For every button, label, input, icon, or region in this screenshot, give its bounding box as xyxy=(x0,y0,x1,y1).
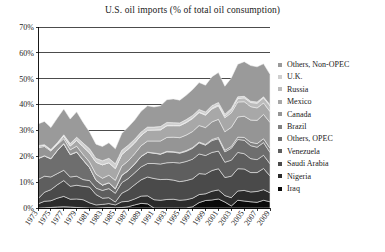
legend-item[interactable]: Canada xyxy=(278,110,311,119)
x-axis-tick-label: 2003 xyxy=(216,209,233,227)
legend-label: Others, OPEC xyxy=(287,134,333,143)
y-axis-tick-label: 30% xyxy=(19,126,34,135)
legend-item[interactable]: Saudi Arabia xyxy=(278,159,329,168)
legend-item[interactable]: Nigeria xyxy=(278,172,311,181)
legend-swatch-icon xyxy=(278,162,282,166)
legend-item[interactable]: Mexico xyxy=(278,97,311,106)
stacked-area-plot: 0%10%20%30%40%50%60%70%19731975197719791… xyxy=(0,0,385,252)
x-axis-tick-label: 1989 xyxy=(126,209,143,227)
legend-label: Iraq xyxy=(287,184,300,193)
legend-label: U.K. xyxy=(287,72,303,81)
x-axis-tick-label: 1991 xyxy=(139,209,156,227)
legend-swatch-icon xyxy=(278,75,282,79)
y-axis-tick-label: 20% xyxy=(19,152,34,161)
y-axis-tick-label: 70% xyxy=(19,23,34,32)
legend-label: Saudi Arabia xyxy=(287,159,329,168)
legend-swatch-icon xyxy=(278,187,282,191)
x-axis-tick-label: 1993 xyxy=(152,209,169,227)
legend-label: Others, Non-OPEC xyxy=(287,60,349,69)
x-axis-tick-label: 1997 xyxy=(178,209,195,227)
legend-label: Mexico xyxy=(287,97,311,106)
legend-item[interactable]: Others, OPEC xyxy=(278,134,333,143)
x-axis-tick-label: 2005 xyxy=(229,209,246,227)
x-axis-tick-label: 2001 xyxy=(204,209,221,227)
y-axis-tick-label: 40% xyxy=(19,100,34,109)
legend-swatch-icon xyxy=(278,100,282,104)
legend-item[interactable]: Russia xyxy=(278,85,308,94)
legend-label: Venezuela xyxy=(287,147,320,156)
legend-label: Brazil xyxy=(287,122,307,131)
y-axis-tick-label: 50% xyxy=(19,75,34,84)
y-axis-tick-label: 60% xyxy=(19,49,34,58)
legend-swatch-icon xyxy=(278,125,282,129)
legend-swatch-icon xyxy=(278,112,282,116)
legend-swatch-icon xyxy=(278,87,282,91)
legend-item[interactable]: Others, Non-OPEC xyxy=(278,60,349,69)
x-axis-tick-label: 1999 xyxy=(191,209,208,227)
x-axis-tick-label: 1983 xyxy=(88,209,105,227)
legend-item[interactable]: Brazil xyxy=(278,122,307,131)
chart-container: U.S. oil imports (% of total oil consump… xyxy=(0,0,385,252)
legend-swatch-icon xyxy=(278,137,282,141)
x-axis-tick-label: 1995 xyxy=(165,209,182,227)
x-axis-tick-label: 1977 xyxy=(49,209,66,227)
x-axis-tick-label: 2007 xyxy=(242,209,259,227)
legend-item[interactable]: U.K. xyxy=(278,72,303,81)
legend-swatch-icon xyxy=(278,149,282,153)
x-axis-tick-label: 1987 xyxy=(113,209,130,227)
x-axis-tick-label: 1979 xyxy=(62,209,79,227)
legend-label: Russia xyxy=(287,85,308,94)
x-axis-tick-label: 1985 xyxy=(100,209,117,227)
legend-item[interactable]: Venezuela xyxy=(278,147,320,156)
legend-label: Canada xyxy=(287,110,311,119)
y-axis-tick-label: 10% xyxy=(19,178,34,187)
legend-item[interactable]: Iraq xyxy=(278,184,300,193)
x-axis-tick-label: 1975 xyxy=(36,209,53,227)
x-axis-tick-label: 1981 xyxy=(75,209,92,227)
legend-swatch-icon xyxy=(278,174,282,178)
legend-swatch-icon xyxy=(278,63,282,67)
legend-label: Nigeria xyxy=(287,172,311,181)
x-axis-tick-label: 2009 xyxy=(255,209,272,227)
